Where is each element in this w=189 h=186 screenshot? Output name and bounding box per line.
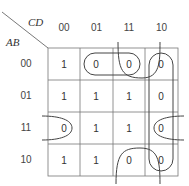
map-cell: 1 [80,144,112,176]
map-cell: 1 [48,144,80,176]
map-cell: 1 [48,80,80,112]
row-header: 00 [14,58,38,69]
row-header: 01 [14,90,38,101]
map-cell: 0 [113,48,145,80]
map-cell: 1 [48,48,80,80]
map-cell: 0 [145,80,177,112]
map-cell: 0 [145,112,177,144]
map-cell: 0 [80,48,112,80]
row-header: 11 [14,122,38,133]
map-cell: 0 [113,144,145,176]
col-variable-label: CD [28,16,43,28]
map-cell: 1 [80,80,112,112]
map-cell: 0 [48,112,80,144]
col-header: 00 [48,22,80,33]
map-cell: 0 [145,48,177,80]
col-header: 10 [145,22,178,33]
map-cell: 1 [80,112,112,144]
map-cell: 0 [145,144,177,176]
col-header: 11 [113,22,145,33]
row-variable-label: AB [6,36,19,48]
map-cell: 1 [113,112,145,144]
map-cell: 1 [113,80,145,112]
col-header: 01 [80,22,113,33]
row-header: 10 [14,154,38,165]
